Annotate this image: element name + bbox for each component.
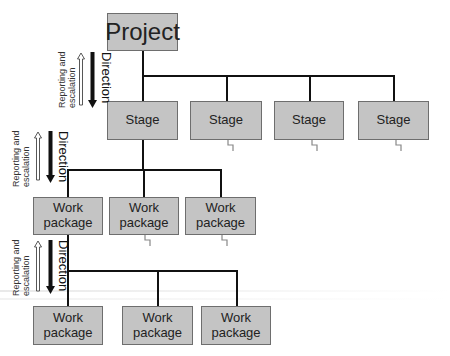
project-label: Project: [105, 18, 180, 46]
wp-label-line2: package: [196, 215, 245, 230]
stage-box: Stage: [358, 101, 429, 140]
work-package-box: Workpackage: [185, 197, 256, 235]
connector: [236, 270, 238, 306]
wp-label-line2: package: [133, 325, 182, 340]
stage-label: Stage: [209, 113, 243, 128]
direction-label: Direction: [99, 52, 114, 103]
connector: [309, 75, 311, 101]
connector: [67, 169, 222, 171]
connector: [226, 75, 228, 101]
connector: [143, 169, 145, 197]
connector: [67, 270, 237, 272]
wp-label-line1: Work: [53, 310, 83, 325]
stage-box: Stage: [190, 101, 262, 140]
work-package-box: Workpackage: [33, 306, 103, 345]
connector: [142, 75, 394, 77]
direction-label: Direction: [56, 240, 71, 291]
up-arrow-icon: [34, 131, 42, 181]
connector: [142, 140, 144, 169]
wp-label-line2: package: [43, 215, 92, 230]
wp-label-line1: Work: [129, 200, 159, 215]
continuation-icon: [311, 140, 321, 152]
project-box: Project: [107, 13, 178, 51]
work-package-box: Workpackage: [33, 197, 103, 235]
down-arrow-icon: [46, 131, 55, 183]
continuation-icon: [144, 235, 154, 247]
stage-label: Stage: [126, 113, 160, 128]
reporting-label: Reporting andescalation: [57, 51, 77, 108]
continuation-icon: [227, 140, 237, 152]
stage-box: Stage: [274, 101, 344, 140]
connector: [220, 169, 222, 197]
connector: [157, 270, 159, 306]
reporting-label: Reporting andescalation: [11, 130, 31, 187]
wp-label-line2: package: [119, 215, 168, 230]
wp-label-line2: package: [211, 325, 260, 340]
wp-label-line2: package: [43, 325, 92, 340]
stage-box: Stage: [107, 101, 178, 140]
continuation-icon: [221, 235, 231, 247]
up-arrow-icon: [34, 240, 42, 292]
stage-label: Stage: [292, 113, 326, 128]
down-arrow-icon: [46, 240, 55, 294]
wp-label-line1: Work: [221, 310, 251, 325]
wp-label-line1: Work: [205, 200, 235, 215]
work-package-box: Workpackage: [201, 306, 271, 345]
stage-label: Stage: [377, 113, 411, 128]
wp-label-line1: Work: [142, 310, 172, 325]
connector: [393, 75, 395, 101]
direction-label: Direction: [56, 131, 71, 182]
reporting-label: Reporting andescalation: [11, 239, 31, 296]
work-package-box: Workpackage: [122, 306, 193, 345]
down-arrow-icon: [88, 52, 97, 108]
continuation-icon: [395, 140, 405, 152]
work-package-box: Workpackage: [109, 197, 179, 235]
wp-label-line1: Work: [53, 200, 83, 215]
up-arrow-icon: [77, 52, 85, 106]
